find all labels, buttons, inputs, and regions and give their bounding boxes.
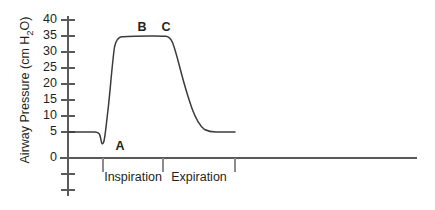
y-tick-label-0: 0 <box>50 150 57 164</box>
annotation-label-c: C <box>161 20 170 34</box>
y-axis-title: Airway Pressure (cm H2O) <box>18 17 34 164</box>
annotation-label-b: B <box>137 20 146 34</box>
y-tick-label-5: 5 <box>50 124 57 138</box>
y-tick-label-40: 40 <box>43 12 57 26</box>
phase-label-inspiration: Inspiration <box>104 170 162 184</box>
y-tick-label-25: 25 <box>43 60 57 74</box>
phase-label-expiration: Expiration <box>171 170 227 184</box>
pressure-time-waveform-svg: 40 35 30 25 20 15 10 5 0 Airway Pressure… <box>0 0 435 210</box>
airway-pressure-chart: 40 35 30 25 20 15 10 5 0 Airway Pressure… <box>0 0 435 210</box>
y-axis-title-main: Airway Pressure (cm H <box>18 36 32 164</box>
airway-pressure-curve <box>68 36 235 144</box>
y-tick-label-15: 15 <box>43 92 57 106</box>
annotation-label-a: A <box>115 139 124 153</box>
y-axis-title-tail: O) <box>18 17 32 31</box>
y-tick-label-20: 20 <box>43 76 57 90</box>
y-tick-label-30: 30 <box>43 44 57 58</box>
y-axis-tick-labels: 40 35 30 25 20 15 10 5 0 <box>43 12 57 164</box>
y-axis-title-group: Airway Pressure (cm H2O) <box>18 17 34 164</box>
y-tick-label-10: 10 <box>43 108 57 122</box>
y-tick-label-35: 35 <box>43 28 57 42</box>
